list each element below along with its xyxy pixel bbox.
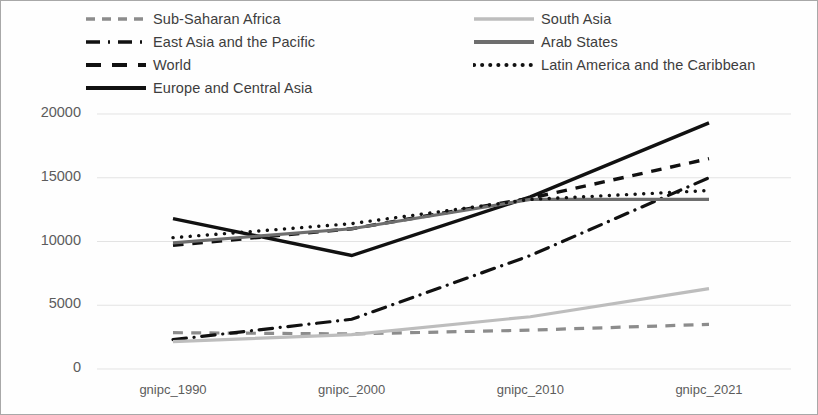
x-axis-tick-label: gnipc_2021: [639, 382, 779, 397]
y-axis-tick-label: 5000: [9, 295, 81, 311]
y-axis-tick-label: 10000: [9, 232, 81, 248]
x-axis-tick-label: gnipc_2000: [282, 382, 422, 397]
x-axis-tick-label: gnipc_1990: [103, 382, 243, 397]
series-line-arab-states: [173, 199, 709, 242]
series-line-world: [173, 159, 709, 246]
chart-frame: Sub-Saharan Africa East Asia and the Pac…: [0, 0, 818, 415]
series-line-east-asia-and-the-pacific: [173, 178, 709, 340]
y-axis-tick-label: 0: [9, 359, 81, 375]
y-axis-tick-label: 20000: [9, 104, 81, 120]
chart-svg: [1, 1, 818, 415]
chart-plot-area: 20000150001000050000gnipc_1990gnipc_2000…: [1, 1, 818, 415]
x-axis-tick-label: gnipc_2010: [460, 382, 600, 397]
y-axis-tick-label: 15000: [9, 168, 81, 184]
